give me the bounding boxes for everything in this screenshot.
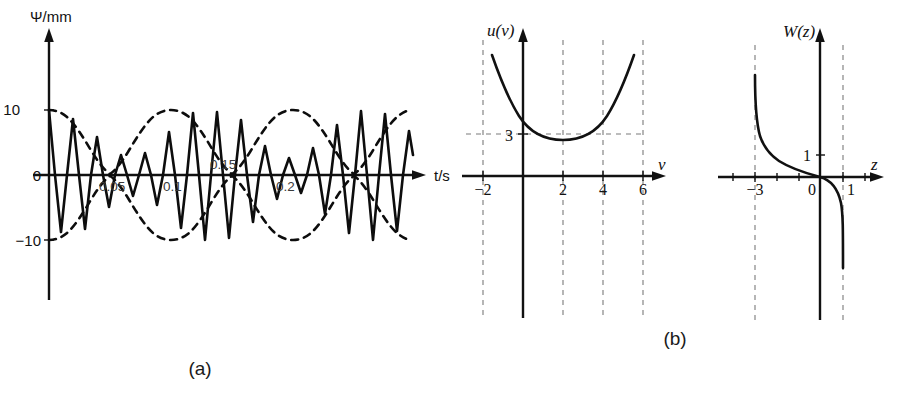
panel-b-left-vtick-label-6: 6 bbox=[639, 181, 647, 198]
panel-b-left-vtick-label-neg2: −2 bbox=[474, 181, 491, 198]
panel-b-left-parabola-curve bbox=[492, 55, 634, 140]
panel-b-left-vtick-label-4: 4 bbox=[599, 181, 607, 198]
panel-b-left-u-axis-label: u(v) bbox=[487, 21, 515, 40]
panel-b-right-z-axis-label: z bbox=[870, 155, 878, 174]
figure-root: 10 0 −10 0.05 0.1 0.15 0.2 Ψ/mm t/s (a) bbox=[0, 0, 902, 393]
panel-a-ytick-label-neg10: −10 bbox=[16, 232, 41, 249]
panel-b-right-w-axis-label: W(z) bbox=[783, 22, 815, 41]
panel-a-ytick-label-10: 10 bbox=[3, 101, 20, 118]
panel-b-right-curve bbox=[755, 75, 843, 268]
panel-b-right-ztick-label-neg3: −3 bbox=[746, 181, 763, 198]
panel-a-xtick-label-01: 0.1 bbox=[163, 179, 182, 194]
panel-a-group: 10 0 −10 0.05 0.1 0.15 0.2 Ψ/mm t/s (a) bbox=[3, 8, 450, 379]
panel-a-xtick-label-02: 0.2 bbox=[276, 179, 295, 194]
panel-b-left-utick-label-3: 3 bbox=[505, 127, 513, 144]
panel-a-caption: (a) bbox=[188, 358, 211, 379]
panel-a-xtick-label-015: 0.15 bbox=[210, 157, 236, 172]
panel-b-right-wtick-label-1: 1 bbox=[803, 147, 811, 164]
panel-a-x-axis-label: t/s bbox=[434, 167, 450, 184]
figure-canvas: 10 0 −10 0.05 0.1 0.15 0.2 Ψ/mm t/s (a) bbox=[0, 0, 902, 393]
panel-b-left-u-axis-arrow bbox=[518, 28, 528, 42]
panel-b-right-ztick-label-0: 0 bbox=[808, 181, 816, 198]
panel-b-left-group: u(v) v 3 −2 2 4 6 bbox=[462, 21, 666, 318]
panel-a-y-axis-label: Ψ/mm bbox=[30, 8, 72, 25]
panel-a-x-axis-arrow bbox=[412, 170, 426, 180]
panel-a-y-axis-arrow bbox=[44, 28, 54, 42]
panel-b-right-ztick-label-1: 1 bbox=[847, 181, 855, 198]
panel-b-right-w-axis-arrow bbox=[815, 28, 825, 42]
panel-b-caption: (b) bbox=[663, 328, 686, 349]
panel-b-left-v-axis-label: v bbox=[658, 155, 666, 174]
panel-b-left-vtick-label-2: 2 bbox=[559, 181, 567, 198]
panel-a-ytick-label-0: 0 bbox=[33, 167, 41, 184]
panel-a-xtick-label-005: 0.05 bbox=[99, 179, 125, 194]
panel-b-right-group: W(z) z 1 −3 0 1 bbox=[718, 22, 884, 320]
